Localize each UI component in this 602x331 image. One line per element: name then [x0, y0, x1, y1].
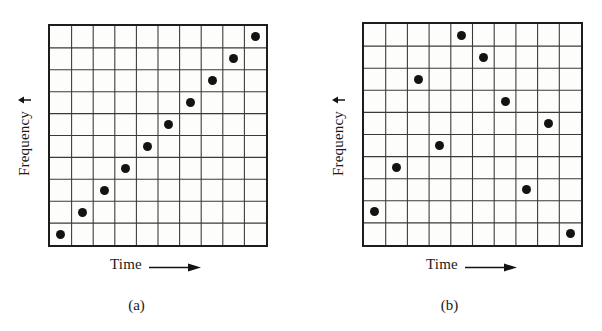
panel-b: Frequency: [301, 0, 602, 331]
y-axis-label-text-panel-a: Frequency: [16, 111, 33, 176]
plot-area-panel-b: [362, 22, 583, 247]
x-axis-label-text-panel-b: Time: [426, 256, 458, 273]
arrow-up-icon: [18, 94, 31, 106]
arrow-right-icon: [465, 260, 517, 271]
y-axis-label-panel-b: Frequency: [328, 70, 348, 200]
y-axis-label-panel-a: Frequency: [14, 70, 34, 200]
y-axis-label-text-panel-b: Frequency: [330, 111, 347, 176]
x-axis-label-panel-b: Time: [426, 256, 517, 273]
arrow-right-icon: [149, 260, 201, 271]
x-axis-label-panel-a: Time: [110, 256, 201, 273]
caption-panel-b: (b): [299, 297, 600, 314]
grid-lines-panel-b: [364, 24, 581, 245]
panel-a: Frequency: [0, 0, 301, 331]
x-axis-label-text-panel-a: Time: [110, 256, 142, 273]
figure-container: Frequency: [0, 0, 602, 331]
plot-area-panel-a: [48, 24, 268, 247]
grid-lines-panel-a: [50, 26, 266, 245]
caption-panel-a: (a): [0, 297, 287, 314]
arrow-up-icon: [332, 94, 345, 106]
